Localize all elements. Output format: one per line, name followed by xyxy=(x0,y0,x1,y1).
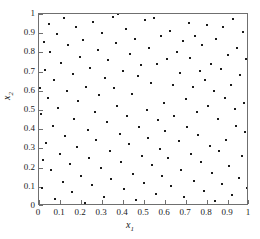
scatter-point xyxy=(64,135,66,137)
scatter-point xyxy=(106,121,108,123)
scatter-point xyxy=(164,130,166,132)
scatter-point xyxy=(122,70,124,72)
scatter-point xyxy=(109,150,111,152)
scatter-point xyxy=(113,87,115,89)
scatter-point xyxy=(126,115,128,117)
scatter-point xyxy=(138,126,140,128)
scatter-point xyxy=(39,87,41,89)
scatter-plot-figure: x2 00.10.20.30.40.50.60.70.80.91 00.10.2… xyxy=(0,0,260,239)
scatter-point xyxy=(153,17,155,19)
scatter-point xyxy=(45,142,47,144)
scatter-point xyxy=(215,38,217,40)
scatter-point xyxy=(79,56,81,58)
scatter-point xyxy=(225,139,227,141)
scatter-point xyxy=(231,194,233,196)
scatter-point xyxy=(178,140,180,142)
scatter-point xyxy=(104,77,106,79)
scatter-point xyxy=(173,115,175,117)
x-axis-label: x1 xyxy=(0,219,260,233)
x-tick-label: 1 xyxy=(235,207,260,217)
scatter-point xyxy=(59,153,61,155)
scatter-point xyxy=(201,44,203,46)
y-tick-label: 0.7 xyxy=(5,66,35,76)
scatter-point xyxy=(172,84,174,86)
scatter-point xyxy=(194,35,196,37)
scatter-point xyxy=(141,155,143,157)
scatter-point xyxy=(48,23,50,25)
scatter-point xyxy=(189,57,191,59)
scatter-point xyxy=(94,111,96,113)
y-tick-label: 0.1 xyxy=(5,181,35,191)
scatter-point xyxy=(120,161,122,163)
scatter-point xyxy=(183,196,185,198)
scatter-points-layer xyxy=(39,14,247,204)
scatter-point xyxy=(230,84,232,86)
scatter-point xyxy=(112,16,114,18)
scatter-point xyxy=(84,202,86,204)
scatter-point xyxy=(143,182,145,184)
scatter-point xyxy=(200,161,202,163)
scatter-point xyxy=(110,178,112,180)
scatter-point xyxy=(242,31,244,33)
y-tick-label: 0.2 xyxy=(5,162,35,172)
scatter-point xyxy=(179,72,181,74)
scatter-point xyxy=(63,17,65,19)
scatter-point xyxy=(160,35,162,37)
y-tick-label: 1 xyxy=(5,8,35,18)
scatter-point xyxy=(87,129,89,131)
scatter-point xyxy=(193,180,195,182)
y-tick-label: 0.9 xyxy=(5,27,35,37)
scatter-point xyxy=(169,30,171,32)
scatter-point xyxy=(218,150,220,152)
scatter-point xyxy=(180,169,182,171)
scatter-point xyxy=(146,109,148,111)
scatter-point xyxy=(43,41,45,43)
scatter-point xyxy=(77,100,79,102)
scatter-point xyxy=(50,169,52,171)
scatter-point xyxy=(75,26,77,28)
scatter-point xyxy=(92,21,94,23)
scatter-point xyxy=(213,90,215,92)
scatter-point xyxy=(135,199,137,201)
scatter-point xyxy=(211,172,213,174)
scatter-point xyxy=(159,148,161,150)
scatter-point xyxy=(101,32,103,34)
scatter-point xyxy=(244,131,246,133)
scatter-point xyxy=(176,51,178,53)
scatter-point xyxy=(73,118,75,120)
x-axis-label-subscript: 1 xyxy=(130,225,134,233)
y-axis-label-base: x xyxy=(1,96,12,100)
scatter-point xyxy=(221,183,223,185)
scatter-point xyxy=(117,14,119,15)
scatter-point xyxy=(42,159,44,161)
scatter-point xyxy=(166,58,168,60)
scatter-point xyxy=(167,157,169,159)
scatter-point xyxy=(44,69,46,71)
scatter-point xyxy=(156,63,158,65)
scatter-point xyxy=(207,105,209,107)
scatter-point xyxy=(107,59,109,61)
scatter-point xyxy=(192,86,194,88)
y-tick-label: 0.8 xyxy=(5,46,35,56)
scatter-point xyxy=(47,97,49,99)
scatter-point xyxy=(206,24,208,26)
scatter-point xyxy=(161,175,163,177)
scatter-point xyxy=(214,200,216,202)
scatter-point xyxy=(60,62,62,64)
scatter-point xyxy=(204,79,206,81)
scatter-point xyxy=(134,38,136,40)
y-tick-label: 0.5 xyxy=(5,104,35,114)
scatter-point xyxy=(147,137,149,139)
scatter-point xyxy=(148,47,150,49)
scatter-point xyxy=(239,74,241,76)
scatter-point xyxy=(57,107,59,109)
scatter-point xyxy=(151,164,153,166)
scatter-point xyxy=(199,70,201,72)
scatter-point xyxy=(89,67,91,69)
scatter-point xyxy=(115,42,117,44)
scatter-point xyxy=(103,196,105,198)
scatter-point xyxy=(129,53,131,55)
scatter-point xyxy=(53,79,55,81)
scatter-point xyxy=(190,153,192,155)
scatter-point xyxy=(41,187,43,189)
